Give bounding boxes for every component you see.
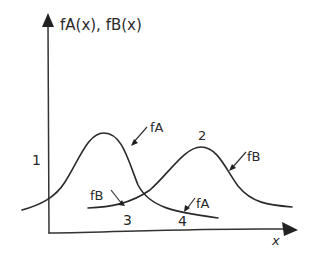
pointer-fB-lower <box>111 190 122 204</box>
y-axis-arrowhead-icon <box>42 13 54 27</box>
pointer-fB-upper <box>232 152 246 168</box>
label-fA-lower: fA <box>196 196 210 211</box>
label-fA-upper: fA <box>150 120 164 135</box>
region-2: 2 <box>198 128 206 143</box>
arrowhead-icon <box>131 139 138 146</box>
x-axis-arrowhead-icon <box>282 222 298 236</box>
y-axis <box>48 24 49 233</box>
x-axis-label: x <box>271 233 280 248</box>
y-axis-label: fA(x), fB(x) <box>60 16 142 34</box>
label-fB-lower: fB <box>90 188 104 203</box>
diagram-canvas: fA(x), fB(x) x fA fB fB fA 1 2 3 4 <box>0 0 313 258</box>
region-3: 3 <box>123 212 132 228</box>
region-1: 1 <box>32 152 41 168</box>
x-axis <box>49 229 285 233</box>
region-4: 4 <box>178 213 187 229</box>
label-fB-upper: fB <box>247 149 261 164</box>
